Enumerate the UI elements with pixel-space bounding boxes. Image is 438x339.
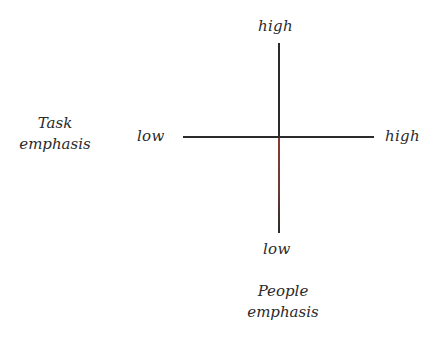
- people-emphasis-axis-title: People emphasis: [238, 281, 328, 323]
- task-emphasis-line1: Task: [10, 113, 100, 134]
- vertical-axis-low-label: low: [263, 240, 291, 258]
- task-emphasis-axis-title: Task emphasis: [10, 113, 100, 155]
- horizontal-axis-high-label: high: [385, 127, 420, 145]
- task-emphasis-line2: emphasis: [10, 134, 100, 155]
- people-emphasis-line1: People: [238, 281, 328, 302]
- horizontal-axis-line: [183, 136, 374, 138]
- horizontal-axis-low-label: low: [137, 127, 165, 145]
- vertical-axis-line-lower: [278, 138, 280, 233]
- vertical-axis-line-upper: [278, 43, 280, 138]
- people-emphasis-line2: emphasis: [238, 302, 328, 323]
- vertical-axis-high-label: high: [258, 17, 293, 35]
